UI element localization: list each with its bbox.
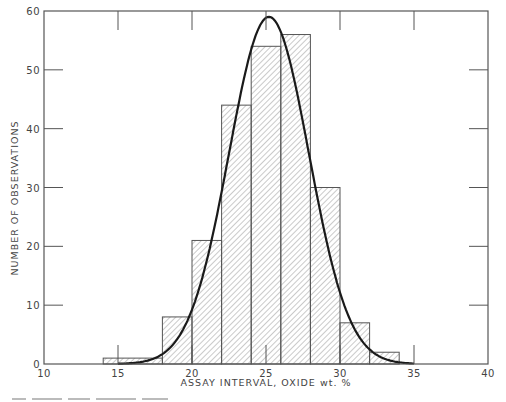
histogram-bar — [251, 46, 281, 364]
y-axis-title: NUMBER OF OBSERVATIONS — [9, 120, 20, 275]
y-tick-labels: 0102030405060 — [26, 6, 40, 370]
y-tick-label: 50 — [26, 65, 40, 76]
histogram-bars — [103, 35, 399, 364]
histogram-chart: 10152025303540 0102030405060 ASSAY INTER… — [0, 0, 506, 402]
x-axis-title: ASSAY INTERVAL, OXIDE wt. % — [181, 377, 352, 388]
y-tick-label: 60 — [26, 6, 40, 17]
x-tick-label: 15 — [111, 368, 125, 379]
y-tick-label: 10 — [26, 300, 40, 311]
y-tick-label: 20 — [26, 241, 40, 252]
histogram-bar — [222, 105, 252, 364]
x-tick-label: 35 — [407, 368, 421, 379]
figure-caption-cropped — [12, 398, 202, 402]
x-tick-label: 40 — [481, 368, 495, 379]
y-tick-label: 0 — [33, 359, 40, 370]
y-tick-label: 30 — [26, 183, 40, 194]
y-tick-label: 40 — [26, 124, 40, 135]
